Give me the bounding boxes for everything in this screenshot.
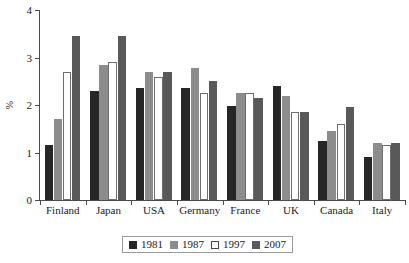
bar-uk-1981	[273, 86, 282, 200]
bar-italy-1997	[382, 145, 391, 200]
bar-uk-1997	[291, 112, 300, 200]
x-label-japan: Japan	[86, 204, 132, 217]
dark-gray-square-icon	[252, 241, 260, 249]
legend-item-1987: 1987	[170, 239, 204, 250]
bar-france-1997	[245, 93, 254, 200]
bar-japan-1987	[99, 65, 108, 200]
legend-label: 2007	[264, 239, 286, 250]
y-tick-label: 4	[18, 5, 32, 15]
bar-canada-1987	[327, 131, 336, 200]
x-label-usa: USA	[131, 204, 177, 217]
x-label-france: France	[223, 204, 269, 217]
bar-germany-1997	[200, 93, 209, 200]
bar-usa-1997	[154, 77, 163, 201]
bar-uk-1987	[282, 96, 291, 201]
bar-germany-1987	[191, 68, 200, 200]
legend-label: 1997	[223, 239, 245, 250]
bar-germany-2007	[209, 81, 218, 200]
bar-japan-2007	[118, 36, 127, 200]
bar-japan-1981	[90, 91, 99, 200]
bar-usa-1981	[136, 88, 145, 200]
bar-finland-2007	[72, 36, 81, 200]
x-label-uk: UK	[268, 204, 314, 217]
legend-item-2007: 2007	[252, 239, 286, 250]
bar-germany-1981	[181, 88, 190, 200]
bar-canada-1997	[337, 124, 346, 200]
bar-france-1981	[227, 106, 236, 200]
x-label-italy: Italy	[359, 204, 405, 217]
grouped-bar-chart: % 01234 FinlandJapanUSAGermanyFranceUKCa…	[0, 0, 409, 263]
bar-japan-1997	[108, 62, 117, 200]
black-square-icon	[129, 241, 137, 249]
legend-label: 1987	[182, 239, 204, 250]
bar-canada-2007	[346, 107, 355, 200]
bar-italy-1981	[364, 157, 373, 200]
chart-legend: 1981198719972007	[122, 236, 293, 253]
bar-uk-2007	[300, 112, 309, 200]
bar-usa-2007	[163, 72, 172, 200]
bar-finland-1997	[63, 72, 72, 200]
x-label-canada: Canada	[314, 204, 360, 217]
bar-usa-1987	[145, 72, 154, 200]
bar-france-2007	[254, 98, 263, 200]
x-tick	[405, 200, 406, 205]
bar-finland-1981	[45, 145, 54, 200]
white-square-icon	[211, 241, 219, 249]
legend-item-1981: 1981	[129, 239, 163, 250]
bar-finland-1987	[54, 119, 63, 200]
bar-canada-1981	[318, 141, 327, 200]
bar-italy-2007	[391, 143, 400, 200]
y-tick-label: 0	[18, 195, 32, 205]
x-label-germany: Germany	[177, 204, 223, 217]
gray-square-icon	[170, 241, 178, 249]
y-tick-label: 1	[18, 148, 32, 158]
y-tick-label: 3	[18, 53, 32, 63]
bar-france-1987	[236, 93, 245, 200]
plot-area	[40, 10, 405, 200]
bar-italy-1987	[373, 143, 382, 200]
y-axis-title: %	[5, 101, 15, 109]
y-tick-label: 2	[18, 100, 32, 110]
legend-label: 1981	[141, 239, 163, 250]
x-label-finland: Finland	[40, 204, 86, 217]
legend-item-1997: 1997	[211, 239, 245, 250]
